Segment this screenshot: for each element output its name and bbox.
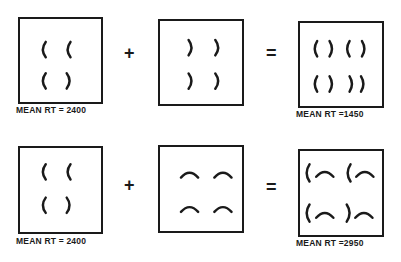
- row2-left-mean-rt-label: MEAN RT = 2400: [16, 236, 86, 246]
- row1-plus-operator: +: [124, 44, 135, 62]
- row1-equals-operator: =: [266, 44, 277, 62]
- row1-result-mean-rt-label: MEAN RT =1450: [296, 109, 364, 119]
- row2-result-stimulus-box: [298, 149, 384, 237]
- row1-result-stimulus-box: [298, 21, 384, 108]
- arc-pattern-icon: [160, 147, 242, 231]
- row2-equals-operator: =: [266, 178, 277, 196]
- row2-result-mean-rt-label: MEAN RT =2950: [296, 238, 364, 248]
- row2-middle-stimulus-box: [158, 145, 244, 233]
- combined-parentheses-pattern-icon: [300, 23, 382, 106]
- row2-left-stimulus-box: [18, 146, 103, 234]
- row1-left-mean-rt-label: MEAN RT = 2400: [16, 105, 86, 115]
- combined-parentheses-arc-pattern-icon: [300, 151, 382, 235]
- parentheses-pattern-icon: [20, 19, 101, 102]
- row1-left-stimulus-box: [18, 17, 103, 104]
- row1-middle-stimulus-box: [158, 19, 244, 106]
- row2-plus-operator: +: [124, 176, 135, 194]
- parentheses-pattern-icon: [20, 148, 101, 232]
- right-parentheses-pattern-icon: [160, 21, 242, 104]
